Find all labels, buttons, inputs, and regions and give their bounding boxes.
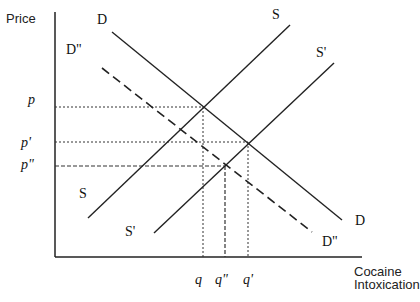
tick-label-q-double-prime: q": [215, 272, 228, 287]
demand-curve-d: [112, 32, 342, 220]
label-d2-bottom: D": [322, 234, 338, 249]
demand-curve-d-double-prime: [102, 68, 312, 232]
label-s1-top: S': [316, 45, 326, 60]
tick-label-q-prime: q': [243, 272, 254, 287]
supply-curve-s: [88, 25, 290, 218]
label-s-bottom: S: [79, 186, 87, 201]
label-d-top: D: [97, 12, 107, 27]
label-d2-top: D": [66, 42, 82, 57]
x-axis-label-line2: Intoxication: [354, 277, 420, 292]
y-axis-label: Price: [6, 11, 36, 26]
label-d-bottom: D: [355, 213, 365, 228]
label-s-top: S: [272, 7, 280, 22]
label-s1-bottom: S': [125, 224, 135, 239]
tick-label-p: p: [27, 92, 35, 107]
tick-label-p-double-prime: p": [20, 157, 34, 172]
tick-label-q: q: [195, 272, 202, 287]
tick-label-p-prime: p': [20, 135, 32, 150]
supply-demand-diagram: Price Cocaine Intoxication D D D" D" S S…: [0, 0, 420, 302]
